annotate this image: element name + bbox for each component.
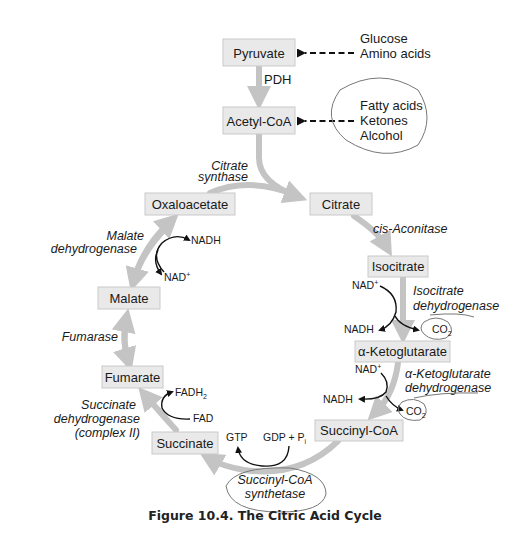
cofactor-co2: CO2: [432, 323, 452, 337]
source-amino-acids: Amino acids: [360, 46, 431, 61]
metabolite-acetyl-coa: Acetyl-CoA: [223, 107, 295, 134]
cofactor-succinyl-coa-synthetase: GTP GDP + Pi: [226, 431, 307, 466]
enzyme-malate-dehydrogenase: Malate dehydrogenase: [51, 229, 144, 256]
metabolite-label: Isocitrate: [372, 259, 425, 274]
figure-caption: Figure 10.4. The Citric Acid Cycle: [0, 508, 530, 523]
cofactor-gtp: GTP: [226, 431, 248, 443]
nadh-arrow: [360, 373, 387, 399]
enzyme-cis-aconitase: cis-Aconitase: [373, 222, 447, 236]
citric-acid-cycle-figure: Pyruvate Acetyl-CoA Oxaloacetate Citrate…: [0, 0, 530, 544]
cofactor-fadh2: FADH2: [175, 386, 207, 400]
metabolite-label: α-Ketoglutarate: [358, 344, 447, 359]
enzyme-succinyl-coa-synthetase: Succinyl-CoA synthetase: [226, 468, 326, 512]
cofactor-nad: NAD+: [355, 363, 381, 375]
source-glucose: Glucose: [360, 31, 408, 46]
metabolite-citrate: Citrate: [310, 193, 372, 215]
source-alcohol: Alcohol: [360, 128, 403, 143]
cofactor-nadh: NADH: [344, 323, 374, 335]
cofactor-co2: CO2: [406, 405, 426, 419]
cofactor-nad: NAD+: [164, 271, 190, 283]
cofactor-nadh: NADH: [191, 234, 221, 246]
metabolite-isocitrate: Isocitrate: [368, 256, 428, 277]
pyruvate-sources: Glucose Amino acids: [305, 31, 431, 61]
metabolite-label: Fumarate: [105, 370, 161, 385]
svg-text:Isocitrate: Isocitrate: [413, 284, 464, 298]
svg-text:dehydrogenase: dehydrogenase: [51, 242, 137, 256]
flow-fumarase-down-arrow: [124, 320, 128, 360]
source-fatty-acids: Fatty acids: [360, 98, 423, 113]
metabolite-alpha-ketoglutarate: α-Ketoglutarate: [355, 341, 450, 362]
enzyme-succinate-dehydrogenase: Succinate dehydrogenase (complex II): [54, 398, 140, 440]
metabolite-label: Acetyl-CoA: [226, 114, 291, 129]
metabolite-succinyl-coa: Succinyl-CoA: [315, 420, 403, 441]
nadh-arrow: [156, 237, 189, 272]
cofactor-gdp-pi: GDP + Pi: [263, 431, 307, 445]
enzyme-pdh: PDH: [264, 72, 291, 87]
metabolite-label: Malate: [109, 291, 148, 306]
metabolite-malate: Malate: [98, 287, 160, 309]
metabolite-succinate: Succinate: [152, 432, 218, 454]
cofactor-nadh: NADH: [323, 393, 353, 405]
gtp-arrow: [238, 446, 289, 466]
svg-text:synthetase: synthetase: [245, 487, 306, 501]
cofactor-nad: NAD+: [352, 279, 378, 291]
acetyl-coa-sources: Fatty acids Ketones Alcohol: [305, 78, 427, 153]
nadh-arrow: [380, 286, 396, 330]
cycle-diagram: Pyruvate Acetyl-CoA Oxaloacetate Citrate…: [0, 0, 530, 544]
svg-text:Succinate: Succinate: [81, 398, 136, 412]
metabolite-label: Oxaloacetate: [152, 197, 229, 212]
metabolite-label: Pyruvate: [233, 46, 284, 61]
enzyme-isocitrate-dehydrogenase: Isocitrate dehydrogenase: [413, 284, 499, 313]
source-ketones: Ketones: [360, 113, 408, 128]
metabolite-oxaloacetate: Oxaloacetate: [145, 193, 235, 215]
metabolite-fumarate: Fumarate: [102, 366, 163, 388]
svg-text:Malate: Malate: [106, 229, 144, 243]
metabolite-label: Citrate: [322, 197, 360, 212]
flow-sdh-arrow: [146, 396, 176, 430]
metabolite-label: Succinyl-CoA: [320, 423, 398, 438]
enzyme-citrate-synthase: Citrate synthase: [198, 159, 248, 184]
cofactor-malate-dh: NADH NAD+: [156, 234, 221, 283]
cofactor-fad: FAD: [193, 412, 214, 424]
svg-text:α-Ketoglutarate: α-Ketoglutarate: [405, 367, 491, 381]
enzyme-akg-dehydrogenase: α-Ketoglutarate dehydrogenase: [405, 367, 491, 395]
svg-text:Succinyl-CoA: Succinyl-CoA: [237, 473, 312, 487]
metabolite-label: Succinate: [156, 436, 213, 451]
metabolite-pyruvate: Pyruvate: [223, 39, 295, 66]
svg-text:synthase: synthase: [198, 170, 248, 184]
enzyme-fumarase: Fumarase: [62, 330, 118, 344]
co2-arrow: [395, 316, 418, 330]
svg-text:(complex II): (complex II): [75, 426, 140, 440]
flow-scs-arrow: [210, 441, 338, 471]
svg-text:dehydrogenase: dehydrogenase: [413, 299, 499, 313]
svg-text:dehydrogenase: dehydrogenase: [54, 412, 140, 426]
